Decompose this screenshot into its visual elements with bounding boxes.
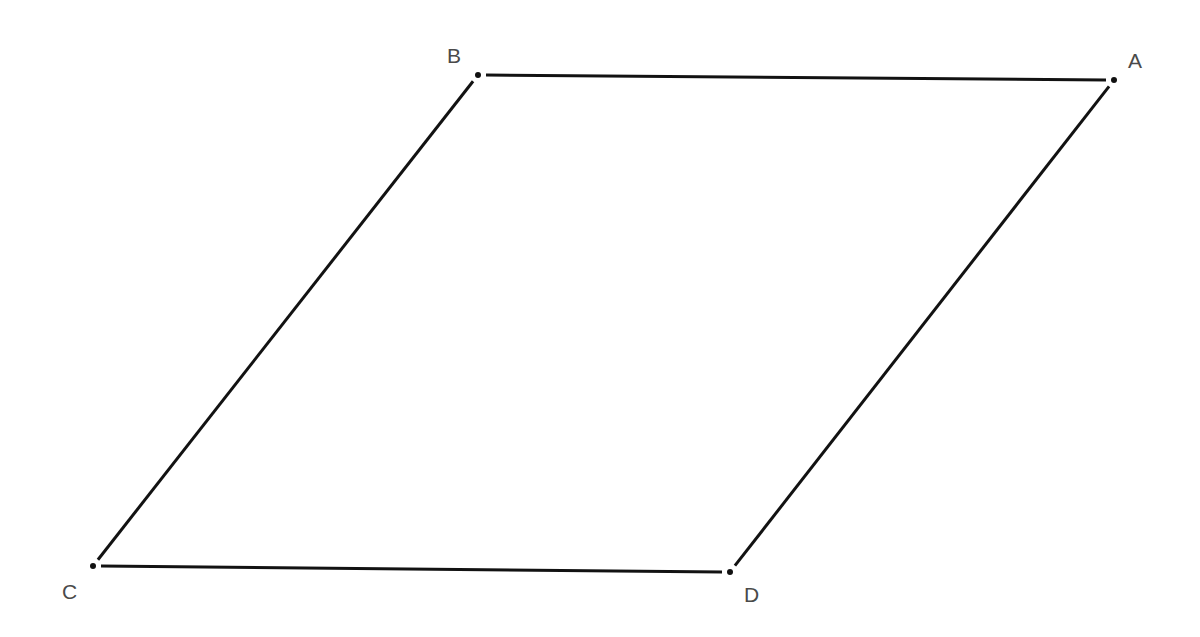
labels-group: ABCD — [62, 44, 1142, 606]
vertex-point-b — [475, 72, 481, 78]
parallelogram-diagram: ABCD — [0, 0, 1200, 637]
vertex-label-c: C — [62, 580, 77, 603]
edges-group — [98, 75, 1109, 572]
edge-da — [735, 86, 1109, 565]
points-group — [90, 72, 1117, 575]
vertex-point-c — [90, 563, 96, 569]
edge-cd — [101, 566, 722, 572]
vertex-point-d — [727, 569, 733, 575]
vertex-point-a — [1111, 77, 1117, 83]
vertex-label-a: A — [1128, 49, 1142, 72]
edge-bc — [98, 81, 473, 559]
vertex-label-b: B — [447, 44, 461, 67]
edge-ab — [486, 75, 1106, 80]
vertex-label-d: D — [744, 583, 759, 606]
